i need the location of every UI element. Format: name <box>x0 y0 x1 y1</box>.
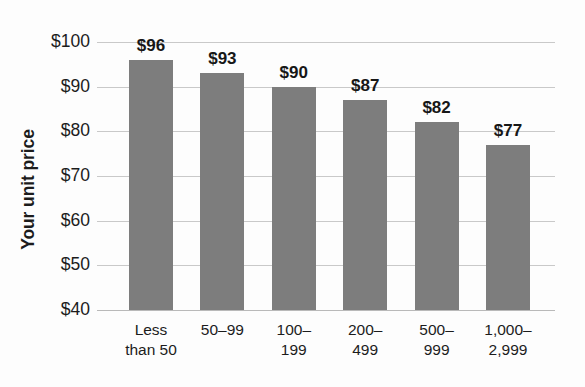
y-tick-label: $70 <box>6 165 90 186</box>
bar[interactable] <box>415 122 459 310</box>
plot-area: $100$90$80$70$60$50$40$96Lessthan 50$935… <box>0 0 585 387</box>
y-tick-label: $100 <box>6 31 90 52</box>
bar[interactable] <box>343 100 387 310</box>
bar-value-label: $90 <box>254 63 334 83</box>
bar-value-label: $96 <box>111 36 191 56</box>
x-axis-category-line1: 1,000– <box>465 320 551 340</box>
bar-chart: Your unit price $100$90$80$70$60$50$40$9… <box>0 0 585 387</box>
y-tick-label: $50 <box>6 254 90 275</box>
bar[interactable] <box>486 145 530 310</box>
x-axis-category-line2: 2,999 <box>465 340 551 360</box>
x-axis-category-line2: than 50 <box>108 340 194 360</box>
y-tick-label: $40 <box>6 299 90 320</box>
y-tick-label: $60 <box>6 210 90 231</box>
bar-value-label: $82 <box>397 98 477 118</box>
x-axis-category-label: 1,000–2,999 <box>465 320 551 360</box>
y-tick-label: $80 <box>6 120 90 141</box>
gridline-40 <box>97 310 555 311</box>
y-tick-label: $90 <box>6 76 90 97</box>
bar-value-label: $87 <box>325 76 405 96</box>
bar[interactable] <box>272 87 316 310</box>
bar-value-label: $77 <box>468 121 548 141</box>
bar[interactable] <box>200 73 244 310</box>
bar-value-label: $93 <box>182 49 262 69</box>
bar[interactable] <box>129 60 173 310</box>
